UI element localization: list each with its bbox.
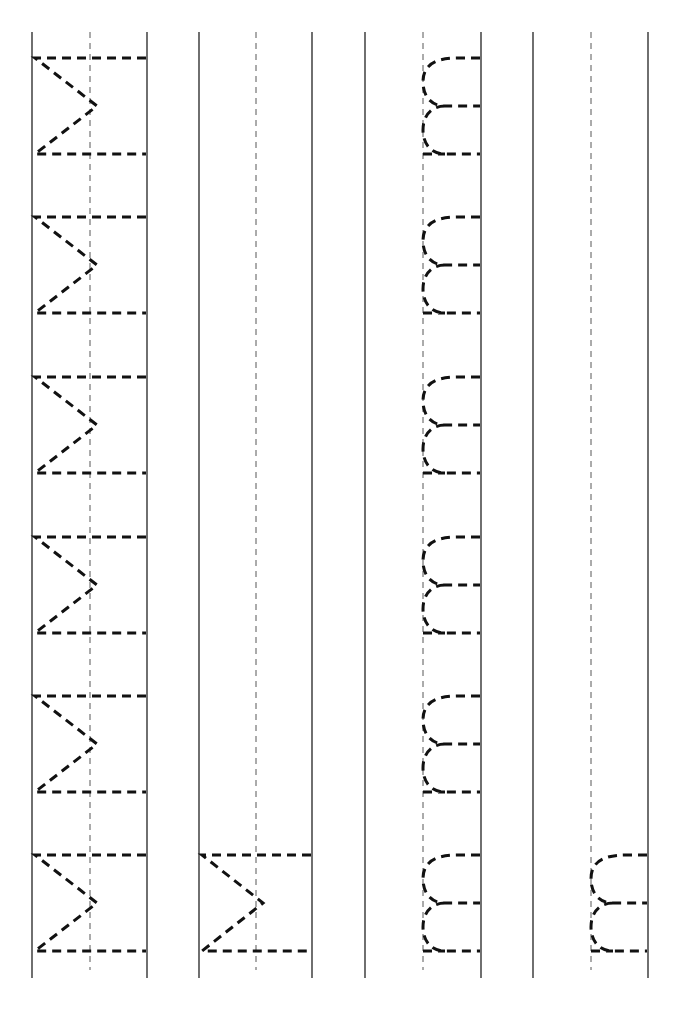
trace-letter-M [35, 855, 146, 951]
trace-letter-m [423, 537, 480, 633]
trace-letter-m [423, 696, 480, 792]
trace-letter-M [35, 377, 146, 473]
trace-letter-M [202, 855, 311, 951]
trace-letter-m [423, 377, 480, 473]
trace-letter-m [423, 855, 480, 951]
trace-letter-m [423, 217, 480, 313]
trace-letter-m [591, 855, 647, 951]
trace-letter-M [35, 537, 146, 633]
trace-letter-M [35, 696, 146, 792]
tracing-worksheet [0, 0, 687, 1025]
trace-letter-M [35, 58, 146, 154]
trace-letter-m [423, 58, 480, 154]
trace-letter-M [35, 217, 146, 313]
